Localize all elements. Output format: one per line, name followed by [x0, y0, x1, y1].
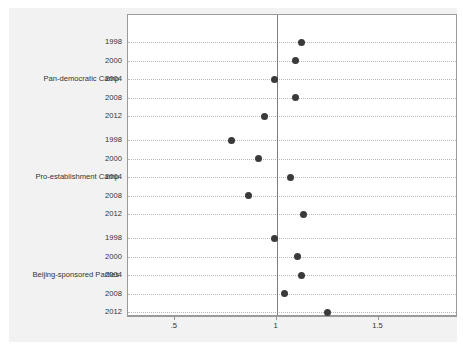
gridline [128, 275, 456, 276]
year-label-2008: 2008 [105, 92, 122, 101]
reference-line-at-one [277, 15, 278, 315]
data-point [298, 272, 305, 279]
data-point [298, 39, 305, 46]
data-point [294, 253, 301, 260]
data-point [281, 290, 288, 297]
data-point [261, 113, 268, 120]
year-label-2012: 2012 [105, 209, 122, 218]
data-point [324, 309, 331, 316]
year-label-column: 1998200020042008201219982000200420082012… [60, 0, 122, 350]
gridline [128, 79, 456, 80]
data-point [245, 192, 252, 199]
gridline [128, 196, 456, 197]
data-point [228, 137, 235, 144]
data-point [292, 57, 299, 64]
year-label-2008: 2008 [105, 190, 122, 199]
figure-margin-left [0, 0, 9, 350]
x-tick-label-1: 1 [274, 321, 278, 330]
x-tick [378, 316, 379, 320]
x-tick [174, 316, 175, 320]
year-label-2000: 2000 [105, 55, 122, 64]
year-label-2012: 2012 [105, 111, 122, 120]
data-point [271, 235, 278, 242]
year-label-2004: 2004 [105, 270, 122, 279]
data-point [292, 94, 299, 101]
year-label-1998: 1998 [105, 135, 122, 144]
gridline [128, 238, 456, 239]
x-tick-label-1.5: 1.5 [372, 321, 383, 330]
gridline [128, 257, 456, 258]
year-label-2004: 2004 [105, 74, 122, 83]
chart-figure: Pan-democratic CampPro-establishment Cam… [0, 0, 463, 350]
gridline [128, 214, 456, 215]
x-tick-label-.5: .5 [171, 321, 177, 330]
gridline [128, 312, 456, 313]
data-point [271, 76, 278, 83]
plot-panel [127, 14, 457, 316]
year-label-2008: 2008 [105, 288, 122, 297]
year-label-2004: 2004 [105, 172, 122, 181]
figure-margin-right [457, 0, 463, 350]
data-point [287, 174, 294, 181]
figure-margin-bottom [0, 342, 463, 350]
year-label-2012: 2012 [105, 307, 122, 316]
year-label-1998: 1998 [105, 37, 122, 46]
gridline [128, 294, 456, 295]
gridline [128, 159, 456, 160]
figure-margin-top [0, 0, 463, 8]
data-point [300, 211, 307, 218]
x-tick [276, 316, 277, 320]
year-label-2000: 2000 [105, 251, 122, 260]
x-axis-line [127, 316, 457, 317]
year-label-2000: 2000 [105, 153, 122, 162]
gridline [128, 116, 456, 117]
gridline [128, 42, 456, 43]
data-point [255, 155, 262, 162]
gridline [128, 140, 456, 141]
year-label-1998: 1998 [105, 233, 122, 242]
